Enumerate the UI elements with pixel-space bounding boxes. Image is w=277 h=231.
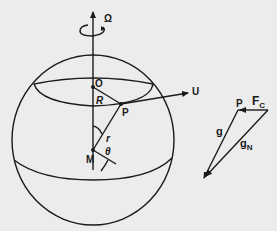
center-M-label: M — [86, 155, 94, 165]
radius-r-label: r — [106, 134, 110, 144]
newtonian-gravity-vector — [206, 110, 268, 176]
newtonian-gravity-label: gN — [240, 138, 253, 152]
angle-arc-upper — [93, 126, 102, 134]
velocity-U-label: U — [192, 87, 199, 97]
angle-arc-lower — [101, 160, 108, 171]
velocity-U-vector — [121, 93, 188, 104]
gravity-vector — [204, 110, 238, 178]
centrifugal-label: FC — [252, 95, 265, 110]
radius-R-label: R — [96, 96, 103, 106]
theta-label: θ — [105, 147, 111, 157]
diagram-canvas — [0, 0, 277, 231]
triangle-point-P-label: P — [236, 99, 243, 109]
point-P-label: P — [122, 108, 129, 118]
omega-label: Ω — [104, 14, 112, 24]
origin-label: O — [95, 79, 103, 89]
gravity-label: g — [216, 126, 223, 137]
rotation-curl-icon — [80, 25, 104, 36]
